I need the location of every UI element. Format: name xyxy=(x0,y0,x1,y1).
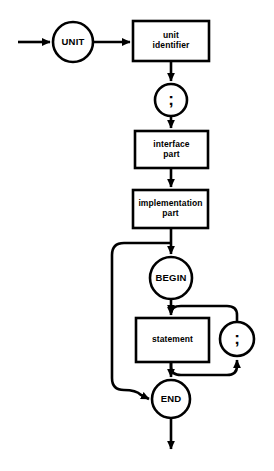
node-semicolon-2-circle xyxy=(220,322,254,356)
node-begin-circle xyxy=(150,257,192,299)
node-statement-box xyxy=(136,318,209,362)
node-unit-circle xyxy=(53,22,93,62)
node-end-circle xyxy=(152,380,190,418)
node-unit-identifier-box xyxy=(133,21,209,61)
node-implementation-part-box xyxy=(133,190,208,228)
diagram-rails xyxy=(0,0,274,471)
node-semicolon-1-circle xyxy=(155,84,187,116)
railroad-diagram: UNIT unit identifier ; interface part im… xyxy=(0,0,274,471)
node-interface-part-box xyxy=(135,131,208,168)
